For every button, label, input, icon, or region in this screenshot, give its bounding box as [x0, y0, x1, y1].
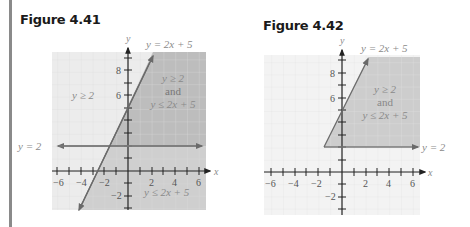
- region-label-and-3-2: y ≤ 2x + 5: [361, 109, 408, 121]
- y-axis-label-2: y: [339, 35, 345, 46]
- x-tick-m2: −2: [99, 177, 110, 188]
- line-label-y2-2: y = 2: [421, 141, 446, 153]
- x-axis-label: x: [213, 166, 219, 177]
- y-tick-8: 8: [116, 65, 121, 76]
- line-label-y2: y = 2: [17, 140, 42, 152]
- x-tick-2: 2: [149, 177, 154, 188]
- y-axis-label: y: [125, 33, 131, 44]
- x-tick-4: 4: [172, 177, 177, 188]
- x-tick-m6-2: −6: [265, 178, 276, 189]
- y-tick-6-2: 6: [330, 93, 335, 104]
- y-tick-m2: −2: [111, 190, 122, 201]
- y-tick-m2-2: −2: [325, 191, 336, 202]
- graphs: y x y = 2x + 5 y = 2 y ≥ 2 y ≤ 2x + 5 y …: [0, 0, 470, 227]
- region-label-and-2-2: and: [377, 96, 393, 108]
- figure-4-41-graph: y x y = 2x + 5 y = 2 y ≥ 2 y ≤ 2x + 5 y …: [17, 33, 219, 210]
- line-label-2x5-2: y = 2x + 5: [360, 42, 408, 54]
- y-tick-8-2: 8: [330, 68, 335, 79]
- y-tick-6: 6: [116, 90, 121, 101]
- region-label-and-1: y ≥ 2: [161, 72, 184, 84]
- x-tick-m4: −4: [76, 177, 87, 188]
- x-tick-m4-2: −4: [288, 178, 299, 189]
- x-tick-6-2: 6: [410, 178, 415, 189]
- x-tick-6: 6: [196, 177, 201, 188]
- region-label-and-2: and: [165, 85, 181, 97]
- region-label-and-3: y ≤ 2x + 5: [149, 98, 196, 110]
- x-tick-2-2: 2: [363, 178, 368, 189]
- line-label-2x5: y = 2x + 5: [145, 38, 193, 50]
- x-tick-m2-2: −2: [311, 178, 322, 189]
- figure-4-42-graph: y x y = 2x + 5 y = 2 y ≥ 2 and y ≤ 2x + …: [264, 35, 446, 215]
- region-label-and-1-2: y ≥ 2: [373, 83, 396, 95]
- region-label-y-ge-2: y ≥ 2: [71, 89, 94, 101]
- x-axis-label-2: x: [427, 167, 433, 178]
- x-tick-m6: −6: [53, 177, 64, 188]
- x-tick-4-2: 4: [386, 178, 391, 189]
